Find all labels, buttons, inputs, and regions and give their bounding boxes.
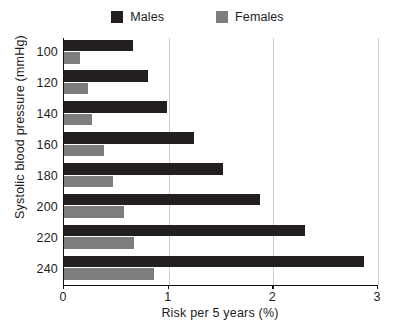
y-axis-tick-labels: 100120140160180200220240 bbox=[22, 38, 58, 285]
legend-label-females: Females bbox=[235, 10, 284, 24]
bar-females bbox=[64, 268, 154, 280]
x-axis-tick-mark bbox=[63, 285, 64, 289]
chart-legend: Males Females bbox=[0, 10, 395, 24]
bar-males bbox=[64, 70, 148, 82]
x-axis-tick-mark bbox=[272, 285, 273, 289]
x-axis-tick-label: 0 bbox=[48, 290, 78, 304]
bar-group bbox=[64, 223, 378, 254]
bar-males bbox=[64, 256, 364, 268]
bar-group bbox=[64, 192, 378, 223]
bar-females bbox=[64, 206, 124, 218]
bar-group bbox=[64, 162, 378, 193]
bar-males bbox=[64, 194, 260, 206]
legend-item-females: Females bbox=[216, 10, 284, 24]
y-axis-label: Systolic blood pressure (mmHg) bbox=[13, 27, 27, 227]
bar-females bbox=[64, 145, 104, 157]
gridline bbox=[378, 38, 379, 285]
y-axis-tick-label: 200 bbox=[28, 200, 58, 214]
bar-chart: Males Females 100120140160180200220240 S… bbox=[0, 0, 395, 332]
bar-males bbox=[64, 132, 194, 144]
legend-swatch-males bbox=[111, 11, 123, 23]
x-axis-tick-mark bbox=[168, 285, 169, 289]
legend-swatch-females bbox=[216, 11, 228, 23]
bar-group bbox=[64, 254, 378, 285]
y-axis-tick-label: 220 bbox=[28, 231, 58, 245]
y-axis-tick-label: 180 bbox=[28, 169, 58, 183]
bar-males bbox=[64, 163, 223, 175]
x-axis-tick-label: 2 bbox=[257, 290, 287, 304]
bar-females bbox=[64, 114, 92, 126]
x-axis-ticks: 0123 bbox=[63, 285, 377, 305]
x-axis-tick-label: 1 bbox=[153, 290, 183, 304]
bar-females bbox=[64, 176, 113, 188]
bar-males bbox=[64, 101, 167, 113]
bar-group bbox=[64, 131, 378, 162]
bar-males bbox=[64, 225, 305, 237]
y-axis-tick-label: 100 bbox=[28, 45, 58, 59]
plot-area bbox=[63, 38, 378, 286]
legend-label-males: Males bbox=[130, 10, 164, 24]
bar-females bbox=[64, 83, 88, 95]
bar-females bbox=[64, 237, 134, 249]
y-axis-tick-label: 240 bbox=[28, 262, 58, 276]
x-axis-tick-mark bbox=[377, 285, 378, 289]
bar-group bbox=[64, 38, 378, 69]
y-axis-tick-label: 140 bbox=[28, 107, 58, 121]
bar-females bbox=[64, 52, 80, 64]
bar-group bbox=[64, 100, 378, 131]
y-axis-tick-label: 160 bbox=[28, 138, 58, 152]
bar-group bbox=[64, 69, 378, 100]
x-axis-label: Risk per 5 years (%) bbox=[63, 306, 377, 320]
legend-item-males: Males bbox=[111, 10, 164, 24]
x-axis-tick-label: 3 bbox=[362, 290, 392, 304]
y-axis-tick-label: 120 bbox=[28, 76, 58, 90]
bar-males bbox=[64, 40, 133, 52]
